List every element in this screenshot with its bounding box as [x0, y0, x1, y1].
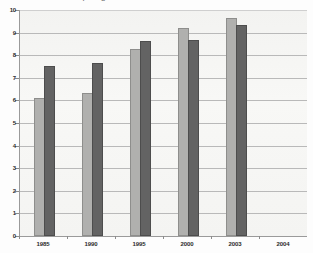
gridline	[19, 78, 307, 79]
gridline	[19, 168, 307, 169]
gridline	[19, 146, 307, 147]
y-tick-label: 5	[2, 120, 16, 126]
gridline	[19, 55, 307, 56]
gridline	[19, 213, 307, 214]
y-tick-label: 9	[2, 30, 16, 36]
x-tick-label: 2003	[220, 241, 250, 248]
bar	[92, 63, 103, 236]
plot-area	[19, 10, 307, 236]
x-tick-label: 1990	[76, 241, 106, 248]
x-tick-label: 2004	[268, 241, 298, 248]
bar	[44, 66, 55, 236]
x-tick-mark	[19, 236, 20, 239]
y-tick-label: 4	[2, 143, 16, 149]
bar	[188, 40, 199, 236]
x-tick-mark	[67, 236, 68, 239]
x-tick-mark	[115, 236, 116, 239]
y-tick-label: 2	[2, 188, 16, 194]
gridline	[19, 100, 307, 101]
gridline	[19, 123, 307, 124]
bar	[140, 41, 151, 236]
x-tick-label: 1985	[28, 241, 58, 248]
y-tick-label: 6	[2, 97, 16, 103]
x-tick-mark	[259, 236, 260, 239]
x-tick-mark	[163, 236, 164, 239]
x-tick-label: 2000	[172, 241, 202, 248]
y-tick-label: 8	[2, 52, 16, 58]
y-tick-label: 3	[2, 165, 16, 171]
gridline	[19, 191, 307, 192]
y-tick-label: 1	[2, 210, 16, 216]
y-tick-label: 7	[2, 75, 16, 81]
x-tick-label: 1995	[124, 241, 154, 248]
y-tick-label: 0	[2, 233, 16, 239]
gridline	[19, 33, 307, 34]
bar	[236, 25, 247, 236]
bar-chart: cut off text line at top edge of scan 01…	[0, 0, 313, 253]
y-tick-label: 10	[2, 7, 16, 13]
cut-off-caption: cut off text line at top edge of scan	[0, 0, 313, 7]
gridline	[19, 10, 307, 11]
y-axis-line	[19, 10, 20, 237]
x-tick-mark	[211, 236, 212, 239]
